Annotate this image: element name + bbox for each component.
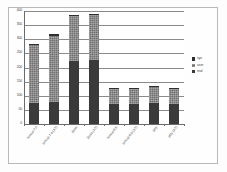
legend-swatch-icon: [192, 64, 195, 67]
y-tick-label: 300: [17, 38, 22, 41]
x-axis-tick-labels: tomcat-7.0tomcat-7.0 (JIT)jbossjboss (JI…: [24, 126, 194, 166]
bar-segment-user: [129, 89, 139, 105]
y-tick-label: 100: [17, 94, 22, 97]
y-tick-label: 200: [17, 66, 22, 69]
x-tick-label: jetty (JIT): [168, 126, 179, 139]
bar-segment-real: [109, 104, 119, 124]
bar-segment-user: [169, 89, 179, 105]
legend-label: user: [197, 64, 203, 67]
bar-group[interactable]: [49, 34, 59, 124]
legend-swatch-icon: [192, 57, 195, 60]
bar-group[interactable]: [109, 88, 119, 124]
bar-segment-real: [129, 104, 139, 124]
bar-segment-user: [89, 15, 99, 60]
bar-group[interactable]: [129, 88, 139, 124]
legend-item-sys[interactable]: sys: [192, 57, 220, 61]
bar-segment-user: [69, 16, 79, 61]
x-tick-label: tomcat-5.5: [107, 126, 119, 140]
bar-group[interactable]: [169, 88, 179, 124]
bar-segment-real: [89, 60, 99, 124]
y-tick-label: 0: [20, 122, 22, 125]
y-axis-tick-labels: 050100150200250300350400: [8, 11, 22, 125]
legend-item-user[interactable]: user: [192, 63, 220, 67]
bar-segment-user: [109, 89, 119, 104]
legend-item-real[interactable]: real: [192, 70, 220, 74]
legend-label: sys: [197, 57, 202, 60]
bar-series-container: [24, 11, 184, 124]
bar-segment-user: [29, 45, 39, 103]
bar-group[interactable]: [89, 14, 99, 124]
y-tick-label: 350: [17, 23, 22, 26]
legend-swatch-icon: [192, 70, 195, 73]
bar-segment-real: [69, 61, 79, 124]
y-tick-label: 400: [17, 9, 22, 12]
bar-group[interactable]: [69, 15, 79, 124]
y-tick-label: 150: [17, 80, 22, 83]
y-tick-label: 250: [17, 52, 22, 55]
x-tick-label: jboss (JIT): [87, 126, 99, 140]
chart-figure: 050100150200250300350400 tomcat-7.0tomca…: [0, 0, 227, 172]
x-tick-label: tomcat-5.5 (JIT): [122, 126, 139, 146]
bar-segment-user: [149, 87, 159, 103]
chart-legend: sysuserreal: [192, 57, 220, 74]
bar-segment-real: [29, 103, 39, 124]
legend-label: real: [197, 70, 202, 73]
bar-segment-real: [149, 103, 159, 124]
bar-group[interactable]: [149, 86, 159, 124]
x-tick-label: tomcat-7.0: [27, 126, 39, 140]
bar-segment-real: [49, 102, 59, 124]
bar-group[interactable]: [29, 44, 39, 125]
x-tick-label: jboss: [71, 126, 78, 134]
y-tick-label: 50: [18, 108, 22, 111]
x-tick-label: tomcat-7.0 (JIT): [42, 126, 59, 146]
x-tick-label: jetty: [152, 126, 158, 133]
bar-segment-user: [49, 36, 59, 102]
bar-segment-real: [169, 104, 179, 124]
